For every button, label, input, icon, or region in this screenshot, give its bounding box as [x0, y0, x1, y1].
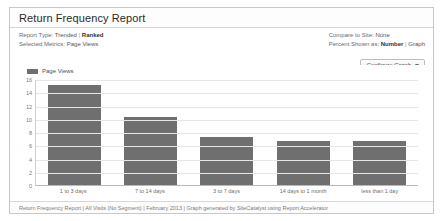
chart-footer-text: Return Frequency Report | All Visits (No… [19, 205, 328, 211]
report-meta-left: Report Type: Trended | Ranked Selected M… [19, 31, 104, 49]
selected-metrics-label: Selected Metrics: [19, 41, 65, 47]
y-axis-tick-label: 14 [26, 90, 32, 96]
percent-shown-as-row: Percent Shown as: Number | Graph [329, 40, 425, 49]
plot-area [35, 80, 418, 186]
compare-to-site-row: Compare to Site: None [329, 31, 425, 40]
bar[interactable] [124, 117, 177, 185]
y-axis-tick-label: 4 [29, 157, 32, 163]
gridline [36, 107, 418, 108]
y-axis-tick-label: 8 [29, 130, 32, 136]
bar[interactable] [200, 137, 253, 185]
report-type-row: Report Type: Trended | Ranked [19, 31, 104, 40]
chart-card: Page Views 1614121086420 1 to 3 days7 to… [16, 65, 427, 201]
chart-plot-wrapper: 1614121086420 1 to 3 days7 to 14 days3 t… [16, 80, 427, 201]
y-axis-tick-label: 2 [29, 170, 32, 176]
selected-metrics-value[interactable]: Page Views [67, 41, 99, 47]
gridline [36, 80, 418, 81]
x-axis: 1 to 3 days7 to 14 days3 to 7 days14 day… [35, 188, 418, 194]
x-axis-tick-label: 1 to 3 days [35, 188, 112, 194]
bar[interactable] [277, 141, 330, 185]
x-axis-tick-label: less than 1 day [341, 188, 418, 194]
bar[interactable] [353, 141, 406, 185]
chart-legend: Page Views [27, 68, 74, 74]
report-type-option-trended[interactable]: Trended [55, 32, 77, 38]
page-title: Return Frequency Report [19, 12, 145, 24]
gridline [36, 93, 418, 94]
chart-footer: Return Frequency Report | All Visits (No… [10, 201, 433, 213]
gridline [36, 146, 418, 147]
report-type-label: Report Type: [19, 32, 53, 38]
y-axis-tick-label: 6 [29, 143, 32, 149]
selected-metrics-row: Selected Metrics: Page Views [19, 40, 104, 49]
bar[interactable] [48, 85, 101, 185]
gridline [36, 133, 418, 134]
report-type-option-ranked[interactable]: Ranked [82, 32, 104, 38]
gridline [36, 160, 418, 161]
percent-shown-option-number[interactable]: Number [381, 41, 404, 47]
y-axis-tick-label: 10 [26, 117, 32, 123]
report-window: Return Frequency Report Report Type: Tre… [0, 0, 443, 221]
x-axis-tick-label: 7 to 14 days [112, 188, 189, 194]
percent-shown-separator: | [405, 41, 407, 47]
legend-label-page-views: Page Views [42, 68, 74, 74]
panel-title-bar: Return Frequency Report [10, 8, 433, 28]
compare-to-site-label: Compare to Site: [329, 32, 374, 38]
legend-swatch-page-views [27, 69, 38, 74]
y-axis-tick-label: 0 [29, 183, 32, 189]
report-type-separator: | [79, 32, 81, 38]
compare-to-site-value[interactable]: None [375, 32, 389, 38]
x-axis-tick-label: 3 to 7 days [188, 188, 265, 194]
gridline [36, 120, 418, 121]
report-meta-block: Report Type: Trended | Ranked Selected M… [10, 28, 433, 59]
gridline [36, 173, 418, 174]
y-axis-tick-label: 12 [26, 104, 32, 110]
x-axis-tick-label: 14 days to 1 month [265, 188, 342, 194]
report-meta-right: Compare to Site: None Percent Shown as: … [329, 31, 425, 49]
percent-shown-as-label: Percent Shown as: [329, 41, 379, 47]
percent-shown-option-graph[interactable]: Graph [408, 41, 425, 47]
report-panel: Return Frequency Report Report Type: Tre… [9, 7, 434, 214]
y-axis-tick-label: 16 [26, 77, 32, 83]
y-axis: 1614121086420 [16, 80, 34, 186]
